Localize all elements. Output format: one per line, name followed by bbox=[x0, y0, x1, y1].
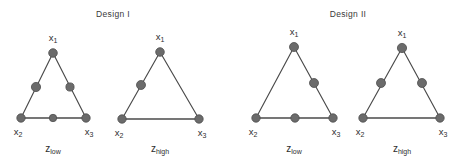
level-label-zlow: zlow bbox=[286, 143, 302, 155]
triangle-design-i-zlow: x1 x2 x3 zlow bbox=[14, 32, 94, 155]
vertex-label-x1: x1 bbox=[49, 32, 58, 44]
vertex-label-x2: x2 bbox=[115, 127, 124, 139]
vertex-label-x1: x1 bbox=[290, 26, 299, 38]
level-label-zlow: zlow bbox=[45, 143, 61, 155]
triangle-design-i-zhigh: x1 x2 x3 zhigh bbox=[115, 31, 207, 156]
design-point bbox=[49, 114, 56, 121]
panel-design-i: Design I x1 x2 x3 zlow bbox=[14, 9, 207, 156]
design-point bbox=[418, 79, 427, 88]
design-point bbox=[329, 114, 337, 122]
vertex-label-x2: x2 bbox=[249, 126, 258, 138]
design-point bbox=[195, 115, 203, 123]
design-point bbox=[310, 79, 319, 88]
simplex-design-figure: Design I x1 x2 x3 zlow bbox=[0, 0, 459, 163]
design-point bbox=[359, 114, 367, 122]
figure-canvas: Design I x1 x2 x3 zlow bbox=[0, 0, 459, 163]
design-point bbox=[118, 115, 126, 123]
design-point bbox=[137, 81, 146, 90]
vertex-label-x2: x2 bbox=[356, 126, 365, 138]
design-point bbox=[82, 114, 90, 122]
level-label-zhigh: zhigh bbox=[393, 143, 411, 156]
vertex-label-x1: x1 bbox=[156, 31, 165, 43]
vertex-label-x3: x3 bbox=[198, 127, 207, 139]
vertex-label-x2: x2 bbox=[14, 126, 23, 138]
vertex-label-x3: x3 bbox=[85, 126, 94, 138]
vertex-label-x3: x3 bbox=[332, 126, 341, 138]
design-point bbox=[49, 49, 58, 58]
design-point bbox=[290, 43, 299, 52]
design-point bbox=[31, 82, 40, 91]
design-point bbox=[17, 114, 25, 122]
design-point bbox=[436, 114, 444, 122]
design-point bbox=[397, 43, 406, 52]
triangle-left-edge bbox=[256, 47, 294, 118]
level-label-zhigh: zhigh bbox=[151, 143, 169, 156]
panel-design-ii: Design II x1 x2 x3 zlow bbox=[249, 9, 448, 156]
design-point bbox=[252, 114, 260, 122]
design-point bbox=[291, 114, 299, 122]
triangle-design-ii-zlow: x1 x2 x3 zlow bbox=[249, 26, 341, 155]
vertex-label-x3: x3 bbox=[439, 126, 448, 138]
panel-title-design-i: Design I bbox=[96, 9, 130, 19]
triangle-right-edge bbox=[160, 52, 199, 119]
design-point bbox=[66, 83, 74, 91]
design-point bbox=[377, 79, 386, 88]
vertex-label-x1: x1 bbox=[398, 27, 407, 39]
triangle-design-ii-zhigh: x1 x2 x3 zhigh bbox=[356, 27, 448, 156]
design-point bbox=[156, 48, 165, 57]
panel-title-design-ii: Design II bbox=[330, 9, 367, 19]
